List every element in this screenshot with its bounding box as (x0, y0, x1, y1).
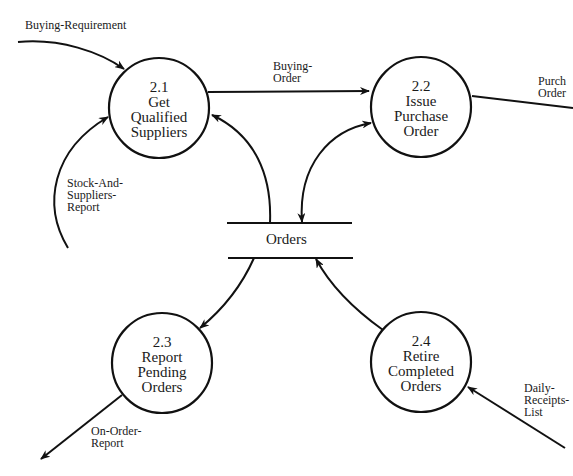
process-name-line: Get (109, 95, 209, 110)
process-name-line: Retire (371, 349, 471, 364)
process-2-3-label: 2.3 Report Pending Orders (112, 335, 212, 395)
process-2-4-label: 2.4 Retire Completed Orders (371, 334, 471, 394)
flow-label-line: Order (273, 72, 312, 84)
process-id: 2.3 (112, 335, 212, 350)
process-name-line: Orders (112, 380, 212, 395)
flow-label-line: Order (538, 87, 566, 99)
flow-label-on-order-report: On-Order- Report (91, 425, 141, 449)
process-name-line: Completed (371, 364, 471, 379)
flow-orders-2-2-bidirectional-arrow[interactable] (302, 123, 371, 222)
process-id: 2.1 (109, 80, 209, 95)
flow-label-purchase-order: Purch Order (538, 75, 566, 99)
process-name-line: Order (371, 124, 471, 139)
process-id: 2.2 (371, 79, 471, 94)
data-store-orders-label: Orders (266, 231, 307, 248)
flow-label-buying-order: Buying- Order (273, 60, 312, 84)
process-name-line: Report (112, 350, 212, 365)
flow-label-line: Report (91, 437, 141, 449)
flow-orders-to-2-3-arrow[interactable] (200, 258, 254, 328)
flow-buying-order-arrow[interactable] (208, 91, 369, 92)
process-name-line: Purchase (371, 109, 471, 124)
flow-label-buying-requirement: Buying-Requirement (25, 19, 126, 31)
process-2-1-label: 2.1 Get Qualified Suppliers (109, 80, 209, 140)
process-name-line: Orders (371, 379, 471, 394)
flow-label-line: Buying-Requirement (25, 18, 126, 32)
flow-orders-to-2-1-arrow[interactable] (212, 115, 270, 223)
flow-buying-requirement-arrow[interactable] (18, 41, 124, 69)
process-id: 2.4 (371, 334, 471, 349)
process-2-2-label: 2.2 Issue Purchase Order (371, 79, 471, 139)
flow-label-daily-receipts-list: Daily- Receipts- List (524, 382, 569, 418)
flow-2-4-to-orders-arrow[interactable] (316, 259, 383, 330)
process-name-line: Suppliers (109, 125, 209, 140)
process-name-line: Pending (112, 365, 212, 380)
flow-label-line: Report (67, 201, 123, 213)
process-name-line: Issue (371, 94, 471, 109)
process-name-line: Qualified (109, 110, 209, 125)
flow-label-stock-and-suppliers-report: Stock-And- Suppliers- Report (67, 177, 123, 213)
flow-label-line: List (524, 406, 569, 418)
